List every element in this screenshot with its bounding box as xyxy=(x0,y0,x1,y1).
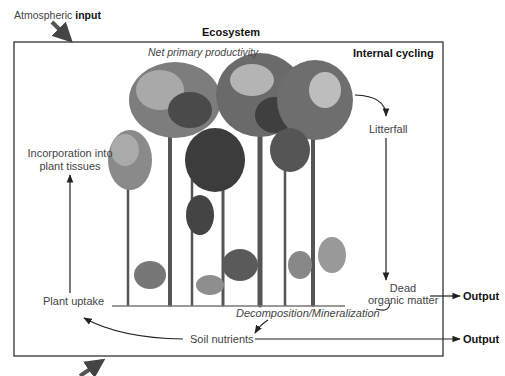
dom-line-1: Dead xyxy=(368,282,438,294)
forest-illustration xyxy=(108,53,353,306)
plant-uptake-label: Plant uptake xyxy=(43,295,104,307)
incorporation-line-1: Incorporation into xyxy=(14,147,126,160)
internal-cycling-label: Internal cycling xyxy=(353,47,434,59)
litterfall-label: Litterfall xyxy=(369,123,408,135)
canopy-to-litterfall-arrow xyxy=(355,95,386,116)
soil-to-uptake-arrow xyxy=(84,318,183,339)
output-label-soil: Output xyxy=(463,333,499,345)
decomposition-label: Decomposition/Mineralization xyxy=(236,307,380,319)
soil-nutrients-label: Soil nutrients xyxy=(190,333,254,345)
ecosystem-title: Ecosystem xyxy=(202,26,260,38)
atmospheric-input-prefix: Atmospheric xyxy=(14,9,72,21)
atmospheric-input-emphasis: input xyxy=(75,9,101,21)
atmospheric-input-label: Atmospheric input xyxy=(14,9,101,21)
output-label-dom: Output xyxy=(463,290,499,302)
dom-line-2: organic matter xyxy=(368,294,438,306)
net-primary-productivity-label: Net primary productivity xyxy=(148,46,258,58)
dead-organic-matter-label: Dead organic matter xyxy=(368,282,438,306)
bottom-input-arrow xyxy=(80,361,102,376)
incorporation-line-2: plant tissues xyxy=(14,160,126,173)
atmospheric-input-arrow xyxy=(52,22,70,40)
incorporation-label: Incorporation into plant tissues xyxy=(14,147,126,173)
decomposition-to-soil-arrow xyxy=(255,320,268,333)
